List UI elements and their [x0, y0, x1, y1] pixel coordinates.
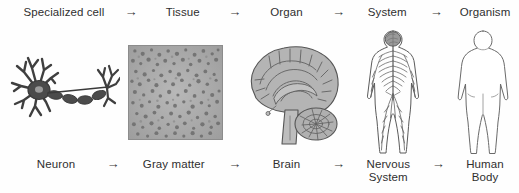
- arrow-icon: →: [425, 158, 451, 171]
- illustration-band: [0, 28, 519, 154]
- organization-levels-diagram: Specialized cell → Tissue → Organ → Syst…: [0, 0, 519, 193]
- top-label-row: Specialized cell → Tissue → Organ → Syst…: [0, 6, 519, 19]
- bottom-label-row: Neuron → Gray matter → Brain → Nervous S…: [0, 158, 519, 183]
- gray-matter-micrograph: [128, 45, 223, 140]
- human-body-illustration: [456, 28, 510, 154]
- gray-matter-illustration: [128, 45, 223, 140]
- top-label-organism: Organism: [457, 6, 513, 19]
- bottom-label-nervous-system: Nervous System: [359, 158, 417, 183]
- arrow-icon: →: [100, 158, 126, 171]
- top-label-system: System: [359, 6, 415, 19]
- bottom-label-gray-matter: Gray matter: [134, 158, 214, 171]
- arrow-icon: →: [325, 6, 351, 19]
- arrow-icon: →: [423, 6, 449, 19]
- arrow-icon: →: [325, 158, 351, 171]
- arrow-icon: →: [222, 6, 248, 19]
- top-label-tissue: Tissue: [152, 6, 214, 19]
- bottom-label-brain: Brain: [256, 158, 318, 171]
- neuron-illustration: [8, 46, 120, 142]
- nervous-system-illustration: [362, 28, 424, 154]
- top-label-specialized-cell: Specialized cell: [18, 6, 110, 19]
- arrow-icon: →: [222, 158, 248, 171]
- top-label-organ: Organ: [256, 6, 318, 19]
- bottom-label-neuron: Neuron: [20, 158, 92, 171]
- arrow-icon: →: [118, 6, 144, 19]
- brain-illustration: [238, 36, 348, 148]
- bottom-label-human-body: Human Body: [459, 158, 511, 183]
